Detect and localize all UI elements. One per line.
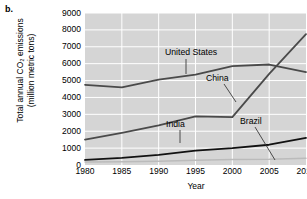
x-axis-label: Year bbox=[85, 181, 307, 191]
series-label-brazil: Brazil bbox=[240, 116, 262, 126]
x-tick-label: 2010 bbox=[297, 166, 307, 176]
x-tick-label: 1980 bbox=[76, 166, 95, 176]
x-tick-label: 1985 bbox=[112, 166, 131, 176]
figure-panel-b: b. Total annual CO₂ emissions (million m… bbox=[0, 0, 307, 199]
series-label-united-states: United States bbox=[165, 47, 217, 57]
series-label-india: India bbox=[166, 119, 185, 129]
series-label-china: China bbox=[206, 73, 229, 83]
x-tick-label: 2005 bbox=[260, 166, 279, 176]
x-tick-label: 2000 bbox=[223, 166, 242, 176]
x-tick-label: 1990 bbox=[149, 166, 168, 176]
x-tick-label: 1995 bbox=[186, 166, 205, 176]
x-axis-ticks: 1980198519901995200020052010 bbox=[0, 166, 307, 180]
